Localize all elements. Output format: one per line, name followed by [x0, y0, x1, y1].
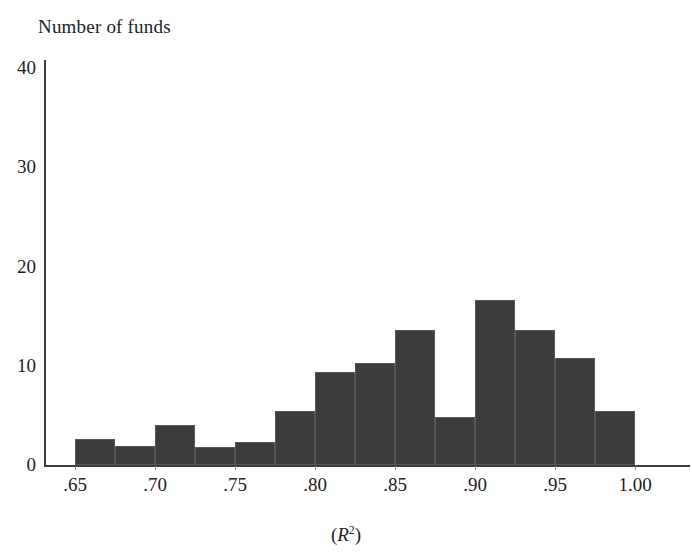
histogram-bar [515, 330, 555, 465]
histogram-bar [355, 363, 395, 465]
histogram-bar [75, 439, 115, 465]
histogram-bar [315, 372, 355, 465]
histogram-bar [155, 425, 195, 465]
histogram-bar [115, 446, 155, 465]
x-axis-label-base: R [337, 524, 349, 545]
histogram-bar [595, 411, 635, 465]
histogram-bar [275, 411, 315, 465]
histogram-bars [0, 0, 692, 557]
histogram-bar [235, 442, 275, 465]
x-axis-label: (R2) [0, 524, 692, 546]
histogram-bar [195, 447, 235, 465]
histogram-bar [475, 300, 515, 465]
histogram-bar [555, 358, 595, 465]
histogram-figure: Number of funds 010203040 .65.70.75.80.8… [0, 0, 692, 557]
x-axis-label-close-paren: ) [355, 524, 361, 545]
histogram-bar [395, 330, 435, 465]
histogram-bar [435, 417, 475, 465]
